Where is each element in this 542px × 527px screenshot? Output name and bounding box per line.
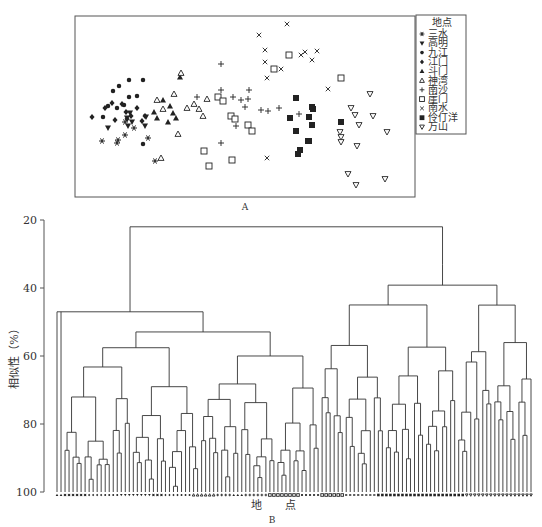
cross-icon [361, 494, 363, 496]
cross-icon [315, 49, 320, 54]
plus-icon [245, 96, 251, 102]
cross-icon [285, 22, 290, 27]
diamond-filled-icon [109, 100, 114, 106]
triangle-down-icon [522, 494, 525, 496]
diamond-filled-icon [123, 109, 128, 115]
triangle-down-icon [348, 106, 354, 111]
asterisk-icon [80, 494, 83, 496]
y-tick-label: 60 [23, 350, 37, 363]
square-filled-icon [306, 114, 312, 120]
square-filled-icon [381, 494, 384, 497]
asterisk-icon [145, 135, 151, 140]
dendrogram-branches [57, 227, 531, 492]
square-filled-icon [441, 494, 444, 497]
square-icon [333, 494, 336, 497]
circle-filled-icon [189, 494, 191, 496]
triangle-down-icon [354, 144, 360, 149]
square-icon [285, 494, 288, 497]
asterisk-icon [99, 138, 105, 143]
square-filled-icon [433, 494, 436, 497]
triangle-down-filled-icon [142, 124, 148, 129]
plus-icon [233, 123, 239, 129]
triangle-up-icon [212, 494, 215, 496]
square-icon [277, 494, 280, 497]
square-icon [281, 494, 284, 497]
square-filled-icon [461, 494, 464, 497]
square-filled-icon [305, 138, 311, 144]
square-icon [249, 128, 255, 134]
triangle-down-icon [494, 494, 497, 496]
triangle-up-filled-icon [56, 494, 59, 496]
triangle-down-filled-icon [148, 494, 151, 496]
triangle-down-icon [469, 494, 472, 496]
cross-icon [369, 494, 371, 496]
asterisk-icon [122, 132, 128, 137]
square-icon [297, 494, 300, 497]
diamond-filled-icon [92, 494, 94, 497]
square-icon [201, 148, 207, 154]
triangle-up-icon [204, 96, 210, 101]
diamond-filled-icon [139, 118, 144, 124]
triangle-up-icon [208, 494, 211, 496]
triangle-down-icon [465, 494, 468, 496]
square-filled-icon [453, 494, 456, 497]
circle-filled-icon [141, 142, 146, 147]
triangle-up-icon [204, 494, 207, 496]
triangle-up-filled-icon [173, 115, 179, 120]
cross-icon [365, 494, 367, 496]
square-filled-icon [449, 494, 452, 497]
square-icon [341, 494, 344, 497]
square-filled-icon [429, 494, 432, 497]
diamond-filled-icon [88, 494, 90, 497]
plus-icon [216, 494, 219, 497]
square-icon [329, 494, 332, 497]
cross-icon [345, 494, 347, 496]
plus-icon [276, 105, 282, 111]
square-filled-icon [338, 119, 344, 125]
square-filled-icon [409, 494, 412, 497]
cross-icon [257, 33, 262, 38]
cross-icon [301, 494, 303, 496]
triangle-up-filled-icon [60, 494, 63, 496]
diamond-filled-icon [164, 494, 166, 497]
square-icon [206, 163, 212, 169]
square-filled-icon [421, 494, 424, 497]
asterisk-icon [156, 494, 159, 496]
square-filled-icon [425, 494, 428, 497]
circle-filled-icon [111, 89, 116, 94]
plus-icon [261, 494, 264, 497]
circle-filled-icon [117, 84, 122, 89]
x-axis-label-1: 地 [251, 499, 262, 512]
triangle-down-filled-icon [125, 124, 131, 129]
triangle-down-icon [518, 494, 521, 496]
cross-icon [326, 87, 331, 92]
circle-filled-icon [185, 494, 187, 496]
triangle-down-icon [481, 494, 484, 496]
plus-icon [218, 61, 224, 67]
triangle-up-icon [175, 131, 181, 136]
plus-icon [220, 494, 223, 497]
plus-icon [296, 111, 302, 117]
circle-filled-icon [127, 78, 132, 83]
diamond-filled-icon [100, 494, 102, 497]
asterisk-icon [160, 494, 163, 496]
diamond-filled-icon [176, 494, 178, 497]
square-icon [269, 494, 272, 497]
square-icon [286, 52, 292, 58]
y-axis-label: 相似性（%） [7, 323, 21, 388]
x-axis-label-2: 点 [285, 499, 296, 512]
square-filled-icon [389, 494, 392, 497]
cross-icon [373, 494, 375, 496]
square-icon [229, 157, 235, 163]
leaf-markers [56, 494, 533, 497]
cross-icon [299, 53, 304, 58]
diamond-filled-icon [134, 105, 139, 111]
dendrogram: 20406080100 相似性（%） 地 点 B [7, 214, 532, 525]
square-icon [289, 494, 292, 497]
plus-icon [253, 494, 256, 497]
square-filled-icon [385, 494, 388, 497]
triangle-up-icon [184, 105, 190, 110]
square-filled-icon [417, 494, 420, 497]
panel-b-label: B [269, 515, 276, 525]
legend: 地点 三水高明九江江门斗门神湾南沙崖门南水伶仃洋万山 [416, 15, 466, 134]
